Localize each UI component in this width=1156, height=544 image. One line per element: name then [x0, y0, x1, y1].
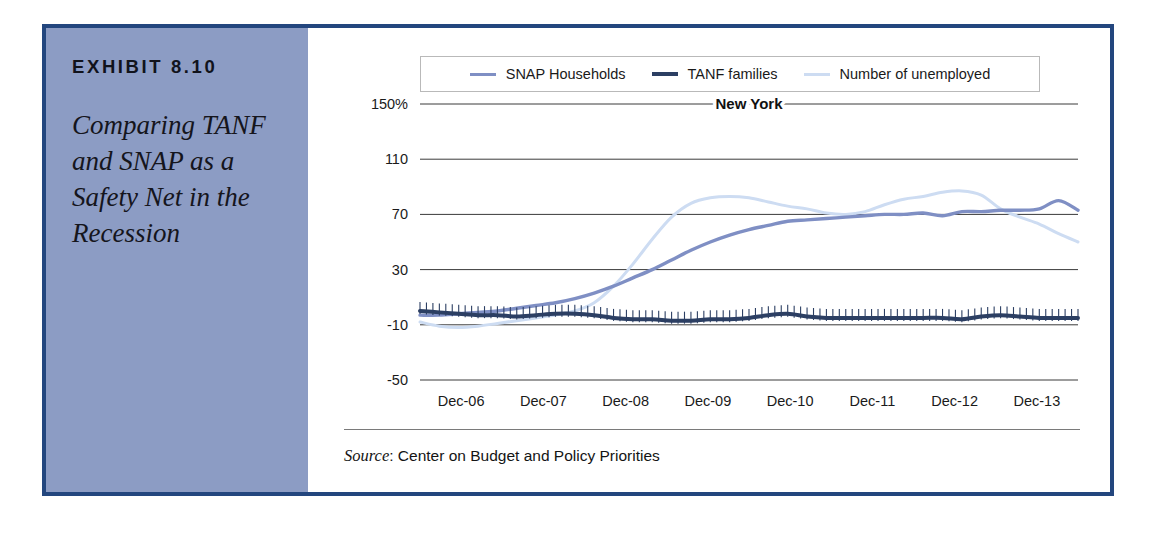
legend-item-tanf-families: TANF families [652, 66, 778, 82]
series-line-snap-households [420, 201, 1078, 316]
x-tick-label: Dec-12 [931, 393, 978, 409]
series-lines [420, 191, 1078, 328]
source-label: Source [344, 446, 389, 465]
legend-label-number-of-unemployed: Number of unemployed [840, 66, 991, 82]
x-tick-label: Dec-11 [850, 393, 896, 409]
legend-item-number-of-unemployed: Number of unemployed [804, 66, 991, 82]
source-separator: : [389, 447, 398, 464]
legend-swatch-tanf-families [652, 72, 678, 76]
legend-label-tanf-families: TANF families [688, 66, 778, 82]
legend-label-snap-households: SNAP Households [506, 66, 626, 82]
y-axis-tick-labels: 150%1107030-10-50 [371, 96, 408, 388]
y-tick-label: 30 [392, 262, 408, 278]
x-tick-label: Dec-06 [438, 393, 485, 409]
chart-legend: SNAP Households TANF families Number of … [420, 56, 1040, 92]
gridlines [420, 104, 1078, 380]
x-tick-label: Dec-10 [767, 393, 814, 409]
line-chart: 150%1107030-10-50 Dec-06Dec-07Dec-08Dec-… [308, 88, 1098, 448]
legend-swatch-snap-households [470, 73, 496, 76]
source-divider [344, 429, 1080, 430]
x-tick-label: Dec-07 [520, 393, 567, 409]
x-axis-tick-labels: Dec-06Dec-07Dec-08Dec-09Dec-10Dec-11Dec-… [438, 393, 1061, 409]
source-note: Source: Center on Budget and Policy Prio… [344, 446, 660, 466]
source-text: Center on Budget and Policy Priorities [398, 447, 660, 464]
y-tick-label: 70 [392, 206, 408, 222]
exhibit-number: EXHIBIT 8.10 [72, 56, 286, 78]
x-tick-label: Dec-08 [602, 393, 649, 409]
legend-swatch-number-of-unemployed [804, 73, 830, 76]
exhibit-title: Comparing TANF and SNAP as a Safety Net … [72, 108, 286, 252]
chart-title: New York [716, 95, 784, 112]
plot-area: 150%1107030-10-50 Dec-06Dec-07Dec-08Dec-… [308, 88, 1110, 448]
chart-panel: SNAP Households TANF families Number of … [308, 28, 1110, 492]
y-tick-label: 110 [385, 151, 408, 167]
y-tick-label: -10 [387, 317, 408, 333]
x-tick-label: Dec-09 [685, 393, 732, 409]
exhibit-caption-panel: EXHIBIT 8.10 Comparing TANF and SNAP as … [46, 28, 308, 492]
exhibit-frame: EXHIBIT 8.10 Comparing TANF and SNAP as … [42, 24, 1114, 496]
legend-item-snap-households: SNAP Households [470, 66, 626, 82]
x-tick-label: Dec-13 [1014, 393, 1061, 409]
y-tick-label: 150% [371, 96, 408, 112]
y-tick-label: -50 [387, 372, 408, 388]
